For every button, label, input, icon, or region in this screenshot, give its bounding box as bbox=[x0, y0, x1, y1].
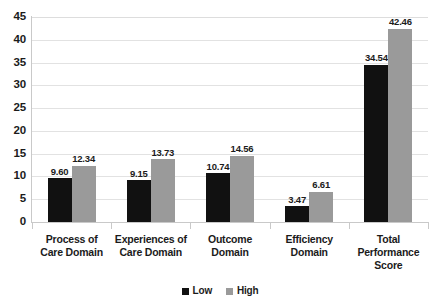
category-label: EfficiencyDomain bbox=[270, 233, 349, 259]
x-axis-tick bbox=[32, 222, 33, 229]
bar-value-label: 14.56 bbox=[231, 144, 254, 154]
legend-swatch-icon bbox=[182, 288, 189, 295]
bar-value-label: 12.34 bbox=[72, 154, 95, 164]
bar-group: 34.5442.46 bbox=[364, 17, 412, 222]
category-label: TotalPerformanceScore bbox=[349, 233, 428, 271]
category-label-line: Score bbox=[349, 259, 428, 272]
x-axis-tick bbox=[190, 222, 191, 229]
plot-area: 9.6012.349.1513.7310.7414.563.476.6134.5… bbox=[32, 17, 428, 222]
bar-low[interactable]: 34.54 bbox=[364, 65, 388, 222]
x-axis-tick bbox=[270, 222, 271, 229]
chart-legend: LowHigh bbox=[0, 286, 440, 296]
grouped-bar-chart: 454035302520151050 9.6012.349.1513.7310.… bbox=[0, 0, 440, 303]
bar-value-label: 6.61 bbox=[312, 180, 330, 190]
x-axis-tick bbox=[111, 222, 112, 229]
bar-group: 9.6012.34 bbox=[48, 17, 96, 222]
bar-group: 9.1513.73 bbox=[127, 17, 175, 222]
y-axis-tick-label: 30 bbox=[0, 79, 26, 91]
category-label-line: Outcome bbox=[190, 233, 269, 246]
y-axis-tick-label: 0 bbox=[0, 216, 26, 228]
category-label-line: Total bbox=[349, 233, 428, 246]
bar-value-label: 42.46 bbox=[389, 17, 412, 27]
y-axis-tick-label: 15 bbox=[0, 148, 26, 160]
y-axis-tick-label: 35 bbox=[0, 57, 26, 69]
bar-value-label: 9.15 bbox=[130, 169, 148, 179]
bar-low[interactable]: 3.47 bbox=[285, 206, 309, 222]
category-label-line: Domain bbox=[270, 246, 349, 259]
bar-group: 10.7414.56 bbox=[206, 17, 254, 222]
category-label-line: Care Domain bbox=[111, 246, 190, 259]
category-label: OutcomeDomain bbox=[190, 233, 269, 259]
legend-swatch-icon bbox=[226, 288, 233, 295]
category-label-line: Domain bbox=[190, 246, 269, 259]
category-label-line: Performance bbox=[349, 246, 428, 259]
y-axis-tick-label: 45 bbox=[0, 11, 26, 23]
y-axis-tick-label: 5 bbox=[0, 193, 26, 205]
bar-value-label: 13.73 bbox=[151, 148, 174, 158]
bar-group: 3.476.61 bbox=[285, 17, 333, 222]
bar-value-label: 34.54 bbox=[365, 53, 388, 63]
bar-low[interactable]: 10.74 bbox=[206, 173, 230, 222]
category-label: Process ofCare Domain bbox=[32, 233, 111, 259]
x-axis-line bbox=[32, 222, 428, 223]
category-label-line: Efficiency bbox=[270, 233, 349, 246]
legend-item-low[interactable]: Low bbox=[182, 286, 212, 296]
bar-high[interactable]: 13.73 bbox=[151, 159, 175, 222]
category-label-line: Process of bbox=[32, 233, 111, 246]
y-axis-line bbox=[31, 16, 32, 223]
x-axis-tick bbox=[349, 222, 350, 229]
bar-high[interactable]: 6.61 bbox=[309, 192, 333, 222]
bar-high[interactable]: 12.34 bbox=[72, 166, 96, 222]
bar-value-label: 9.60 bbox=[51, 167, 69, 177]
legend-label: Low bbox=[193, 286, 212, 296]
y-axis-tick-label: 25 bbox=[0, 102, 26, 114]
bar-low[interactable]: 9.15 bbox=[127, 180, 151, 222]
y-axis-tick-label: 10 bbox=[0, 170, 26, 182]
bar-low[interactable]: 9.60 bbox=[48, 178, 72, 222]
y-axis-tick-label: 40 bbox=[0, 34, 26, 46]
legend-item-high[interactable]: High bbox=[226, 286, 258, 296]
x-axis-tick bbox=[428, 222, 429, 229]
y-axis-tick-label: 20 bbox=[0, 125, 26, 137]
bar-value-label: 3.47 bbox=[288, 195, 306, 205]
bar-high[interactable]: 42.46 bbox=[388, 29, 412, 222]
category-label-line: Experiences of bbox=[111, 233, 190, 246]
bar-value-label: 10.74 bbox=[207, 162, 230, 172]
bar-high[interactable]: 14.56 bbox=[230, 156, 254, 222]
category-label: Experiences ofCare Domain bbox=[111, 233, 190, 259]
legend-label: High bbox=[237, 286, 258, 296]
category-label-line: Care Domain bbox=[32, 246, 111, 259]
